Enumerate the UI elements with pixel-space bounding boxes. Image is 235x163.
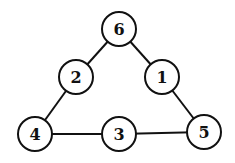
node-label: 2: [70, 68, 81, 87]
node-label: 1: [156, 68, 167, 87]
node-1: 1: [145, 60, 179, 94]
node-label: 5: [198, 123, 209, 142]
node-6: 6: [102, 12, 136, 46]
nodes: 621435: [18, 12, 221, 151]
node-label: 3: [113, 125, 124, 144]
node-label: 6: [113, 20, 124, 39]
node-2: 2: [59, 60, 93, 94]
node-3: 3: [102, 117, 136, 151]
node-4: 4: [18, 117, 52, 151]
node-5: 5: [187, 115, 221, 149]
node-label: 4: [29, 125, 40, 144]
triangle-number-diagram: 621435: [0, 0, 235, 163]
